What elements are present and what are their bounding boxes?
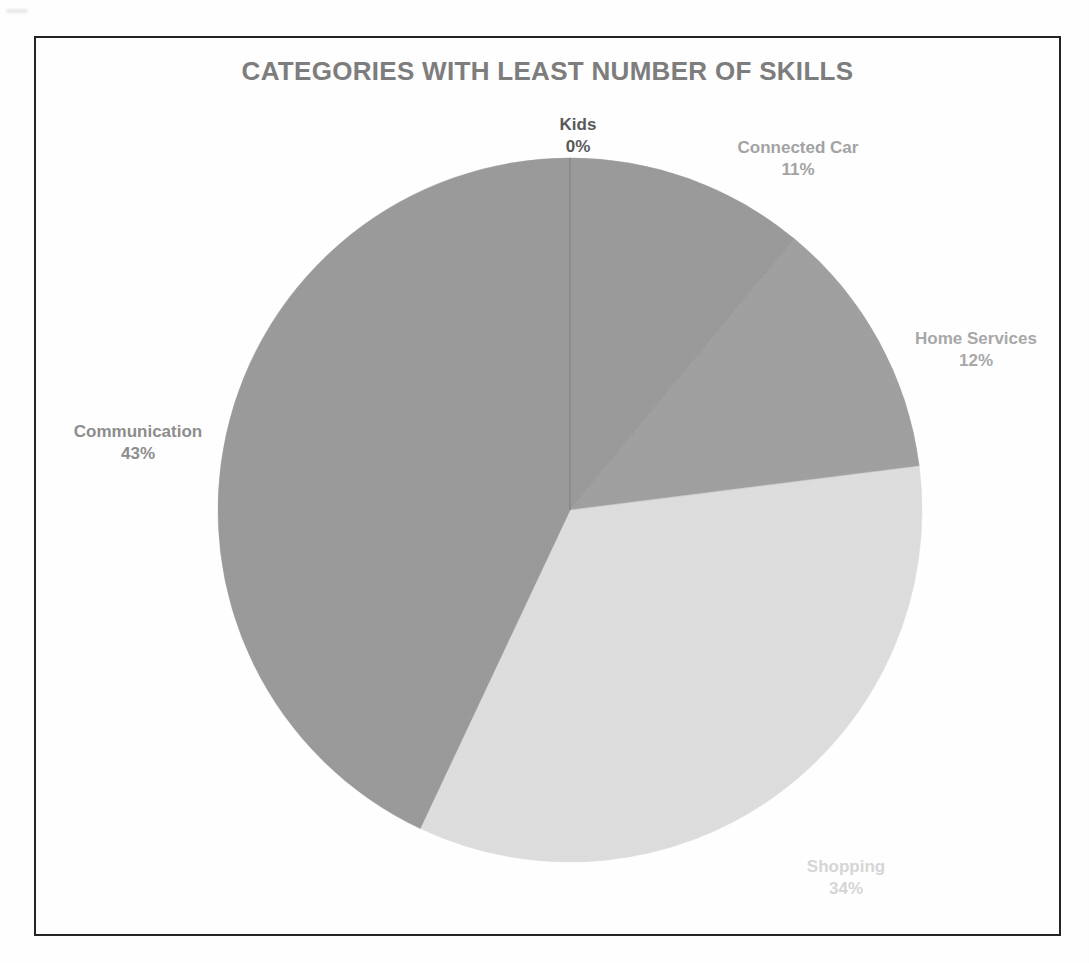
pie-chart bbox=[36, 38, 1063, 938]
slice-label-shopping: Shopping 34% bbox=[741, 856, 951, 900]
slice-label-home-services: Home Services 12% bbox=[871, 328, 1081, 372]
slice-label-shopping-value: 34% bbox=[741, 878, 951, 900]
scan-artifact bbox=[0, 0, 1089, 30]
slice-label-communication: Communication 43% bbox=[28, 421, 248, 465]
slice-label-connected-car-value: 11% bbox=[688, 159, 908, 181]
pie-chart-svg bbox=[36, 38, 1063, 938]
slice-label-home-services-value: 12% bbox=[871, 350, 1081, 372]
slice-label-communication-name: Communication bbox=[28, 421, 248, 443]
slice-label-connected-car-name: Connected Car bbox=[688, 137, 908, 159]
slice-label-kids: Kids 0% bbox=[488, 114, 668, 158]
slice-label-connected-car: Connected Car 11% bbox=[688, 137, 908, 181]
slice-label-communication-value: 43% bbox=[28, 443, 248, 465]
slice-label-shopping-name: Shopping bbox=[741, 856, 951, 878]
slice-label-kids-name: Kids bbox=[488, 114, 668, 136]
slice-label-home-services-name: Home Services bbox=[871, 328, 1081, 350]
chart-frame: CATEGORIES WITH LEAST NUMBER OF SKILLS K… bbox=[34, 36, 1061, 936]
slice-label-kids-value: 0% bbox=[488, 136, 668, 158]
